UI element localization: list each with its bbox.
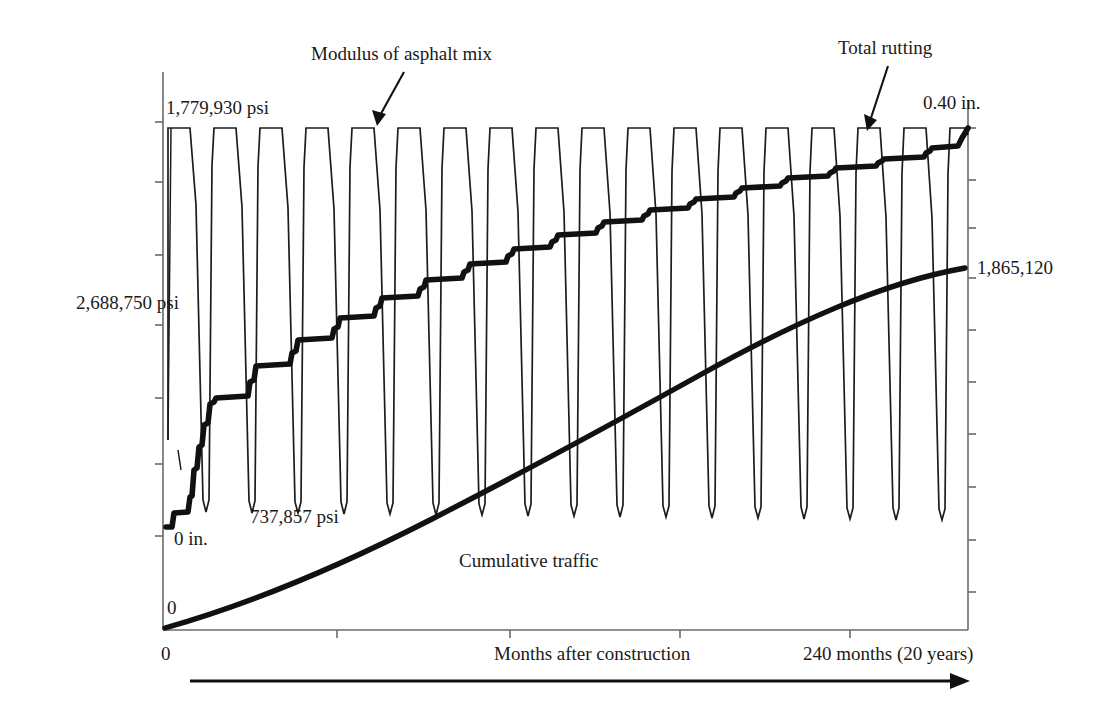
modulus-annotation-arrow bbox=[372, 72, 404, 126]
series-modulus-of-asphalt-mix bbox=[168, 128, 968, 520]
rutting-annotation-arrow bbox=[864, 66, 888, 131]
time-direction-arrow bbox=[190, 673, 970, 689]
x-axis-end-label: 240 months (20 years) bbox=[803, 644, 973, 663]
rutting-zero-label: 0 in. bbox=[174, 529, 208, 548]
x-axis-title: Months after construction bbox=[494, 644, 690, 663]
annotation-cumulative-traffic: Cumulative traffic bbox=[459, 551, 598, 570]
annotation-arrows bbox=[372, 66, 888, 131]
traffic-max-label: 1,865,120 bbox=[977, 258, 1053, 277]
bottom-axis-ticks bbox=[337, 630, 850, 638]
left-axis-ticks bbox=[155, 122, 163, 536]
modulus-trough-label: 737,857 psi bbox=[250, 507, 339, 526]
x-axis-zero-label: 0 bbox=[161, 644, 171, 663]
traffic-zero-label: 0 bbox=[167, 598, 177, 617]
modulus-line bbox=[168, 128, 968, 520]
chart-figure: 1,779,930 psi 2,688,750 psi 737,857 psi … bbox=[0, 0, 1095, 714]
modulus-mid-label: 2,688,750 psi bbox=[76, 293, 179, 312]
rutting-max-label: 0.40 in. bbox=[923, 93, 981, 112]
modulus-peak-label: 1,779,930 psi bbox=[166, 98, 269, 117]
right-axis-ticks bbox=[968, 128, 976, 592]
annotation-modulus-of-asphalt-mix: Modulus of asphalt mix bbox=[311, 44, 492, 63]
annotation-total-rutting: Total rutting bbox=[838, 38, 932, 57]
